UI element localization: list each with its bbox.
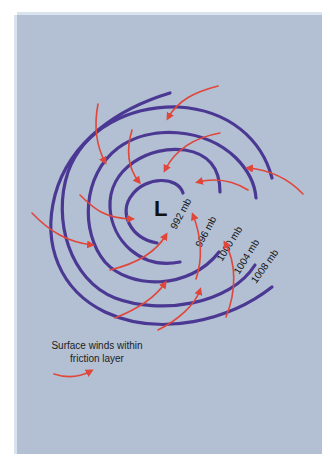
isobar-label-992: 992 mb <box>168 196 194 231</box>
legend: Surface winds within friction layer <box>42 339 152 365</box>
low-pressure-diagram: 992 mb 996 mb 1000 mb 1004 mb 1008 mb L <box>0 0 330 463</box>
low-pressure-center-label: L <box>154 196 167 221</box>
isobar-label-996: 996 mb <box>193 214 219 249</box>
legend-text-line-2: friction layer <box>42 352 152 365</box>
legend-text-line-1: Surface winds within <box>42 339 152 352</box>
legend-wind-arrow-icon <box>54 371 91 377</box>
wind-arrow <box>198 180 248 190</box>
wind-arrow <box>110 235 166 270</box>
